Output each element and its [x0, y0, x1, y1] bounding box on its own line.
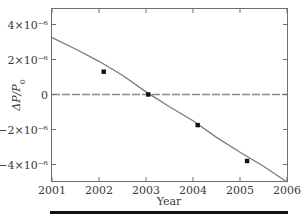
y-tick-label: 0: [41, 89, 48, 102]
y-tick-label: 4×10⁻⁶: [8, 19, 49, 32]
y-tick-labels: 4×10⁻⁶2×10⁻⁶0−2×10⁻⁶−4×10⁻⁶: [0, 19, 49, 172]
data-point: [146, 92, 150, 96]
y-tick-label: −4×10⁻⁶: [0, 159, 49, 172]
x-tick-label: 2005: [226, 184, 254, 197]
x-tick-label: 2006: [273, 184, 301, 197]
chart: 200120022003200420052006 4×10⁻⁶2×10⁻⁶0−2…: [0, 0, 302, 214]
data-point: [102, 70, 106, 74]
data-point: [245, 159, 249, 163]
y-axis-label: ΔP/P0: [10, 79, 27, 112]
bottom-rule: [50, 211, 288, 214]
x-tick-label: 2001: [38, 184, 66, 197]
fit-line: [52, 38, 287, 182]
y-tick-label: 2×10⁻⁶: [8, 54, 49, 67]
y-tick-label: −2×10⁻⁶: [0, 124, 49, 137]
x-tick-label: 2002: [85, 184, 113, 197]
data-markers: [102, 70, 250, 164]
x-axis-label: Year: [156, 195, 182, 208]
data-point: [196, 123, 200, 127]
x-tick-label: 2004: [179, 184, 207, 197]
